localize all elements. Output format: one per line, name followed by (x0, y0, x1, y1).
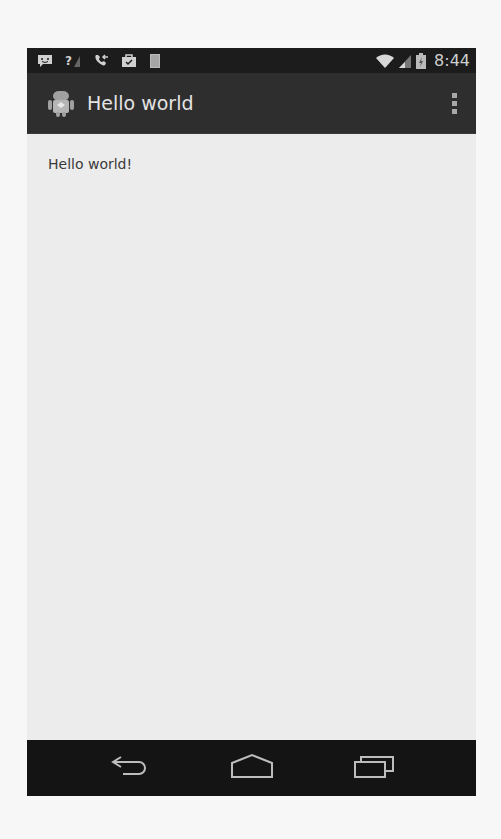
battery-charging-icon (416, 53, 426, 69)
back-button[interactable] (99, 748, 159, 788)
recent-apps-button[interactable] (345, 748, 405, 788)
navigation-bar (27, 740, 476, 796)
no-signal-icon: ? (65, 53, 81, 69)
hello-text: Hello world! (48, 156, 455, 172)
recent-apps-icon (353, 753, 397, 783)
android-icon[interactable] (47, 88, 75, 118)
clock: 8:44 (434, 51, 470, 70)
overflow-dot (452, 101, 457, 106)
home-icon (230, 753, 274, 783)
action-bar: Hello world (27, 73, 476, 134)
svg-text:?: ? (65, 54, 72, 68)
content-area: Hello world! (27, 134, 476, 740)
home-button[interactable] (222, 748, 282, 788)
back-icon (109, 754, 149, 782)
overflow-dot (452, 109, 457, 114)
overflow-menu-icon (452, 93, 457, 98)
missed-call-icon (93, 53, 109, 69)
cell-signal-icon (398, 53, 412, 69)
sd-card-icon (149, 53, 161, 69)
overflow-menu-button[interactable] (442, 83, 466, 123)
phone-screen: ? 8:44 (27, 48, 476, 796)
wifi-icon (376, 53, 394, 69)
system-icons: 8:44 (376, 51, 470, 70)
app-title: Hello world (87, 92, 442, 114)
briefcase-check-icon (121, 53, 137, 69)
status-bar: ? 8:44 (27, 48, 476, 73)
chat-notification-icon (37, 53, 53, 69)
notification-icons: ? (37, 53, 376, 69)
